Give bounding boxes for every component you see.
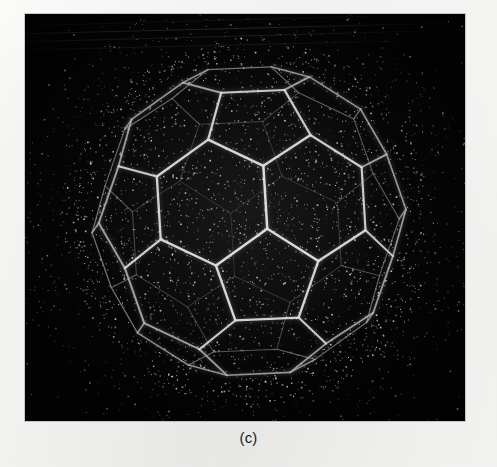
polyhedron-wireframe-render	[25, 14, 465, 421]
figure-image-panel	[25, 14, 465, 421]
figure-caption: (c)	[0, 429, 497, 446]
figure-page: (c)	[0, 0, 497, 467]
